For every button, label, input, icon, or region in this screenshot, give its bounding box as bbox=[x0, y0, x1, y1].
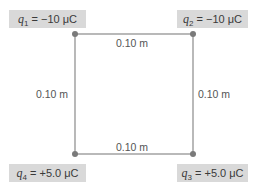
dimension-right: 0.10 m bbox=[198, 88, 230, 100]
dimension-bottom: 0.10 m bbox=[116, 141, 148, 153]
charge-value: = −10 μC bbox=[197, 13, 242, 25]
charge-label-q3: q3 = +5.0 μC bbox=[177, 164, 248, 182]
charge-dot-q1 bbox=[72, 31, 78, 37]
dimension-left: 0.10 m bbox=[36, 88, 68, 100]
charge-value: = +5.0 μC bbox=[195, 167, 244, 179]
charge-subscript: 3 bbox=[187, 173, 191, 182]
charge-dot-q4 bbox=[72, 151, 78, 157]
dimension-top: 0.10 m bbox=[116, 37, 148, 49]
charge-dot-q3 bbox=[190, 151, 196, 157]
charge-label-q2: q2 = −10 μC bbox=[177, 10, 248, 28]
charge-subscript: 2 bbox=[189, 19, 193, 28]
charge-dot-q2 bbox=[190, 31, 196, 37]
charge-label-q1: q1 = −10 μC bbox=[9, 10, 86, 28]
square-outline bbox=[75, 34, 193, 154]
charge-value: = +5.0 μC bbox=[30, 167, 79, 179]
charge-value: = −10 μC bbox=[32, 13, 77, 25]
charge-label-q4: q4 = +5.0 μC bbox=[9, 164, 86, 182]
charge-subscript: 4 bbox=[22, 173, 26, 182]
charge-subscript: 1 bbox=[24, 19, 28, 28]
